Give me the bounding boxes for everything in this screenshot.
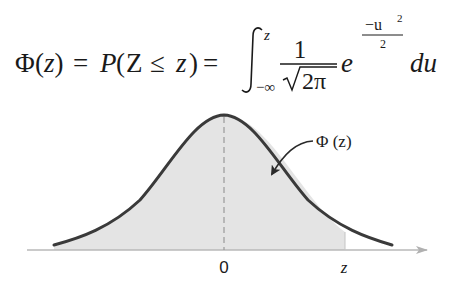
fraction-radicand: 2π	[302, 68, 326, 94]
formula-prob-z: z	[175, 48, 187, 78]
formula-phi-arg: (z)	[35, 48, 64, 78]
formula-prob-close: )	[189, 48, 198, 78]
figure-svg: Φ (z) = P ( Z ≤ z ) = z −∞ 1 2π e	[0, 0, 449, 290]
formula-prob-p: P	[99, 48, 117, 78]
exp-numerator: −u	[365, 16, 382, 33]
exp-base: e	[341, 48, 353, 78]
figure: Φ (z) = P ( Z ≤ z ) = z −∞ 1 2π e	[0, 0, 449, 290]
formula: Φ (z) = P ( Z ≤ z ) = z −∞ 1 2π e	[15, 12, 437, 95]
exp-numerator-power: 2	[397, 12, 403, 24]
differential: du	[410, 48, 437, 78]
normal-curve-diagram: Φ (z) 0 z	[27, 115, 427, 277]
formula-equals-1: =	[73, 48, 88, 78]
formula-equals-2: =	[203, 48, 218, 78]
exp-denominator: 2	[380, 37, 386, 51]
fraction-numerator: 1	[294, 36, 307, 63]
axis-label-zero: 0	[219, 258, 228, 277]
integral-lower-limit: −∞	[256, 79, 275, 95]
formula-le: ≤	[150, 48, 165, 78]
formula-phi: Φ	[15, 48, 35, 78]
formula-prob-open: (	[116, 48, 125, 78]
integral-upper-limit: z	[263, 27, 270, 43]
axis-label-z: z	[340, 258, 348, 277]
curve-label: Φ (z)	[316, 132, 352, 151]
formula-prob-Z: Z	[126, 48, 143, 78]
